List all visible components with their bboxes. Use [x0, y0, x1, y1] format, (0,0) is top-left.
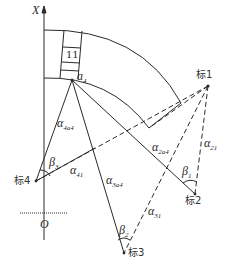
alpha-2a4-label: α2a4	[152, 141, 169, 156]
alpha-41-label: α41	[70, 164, 83, 179]
station3-marker	[123, 252, 126, 255]
dashed-station1-to-station3	[124, 86, 208, 253]
station1-label: 标1	[196, 70, 212, 80]
alpha-4a4-label: α4a4	[57, 117, 74, 132]
point-a4-label: a4	[77, 70, 87, 85]
station1-marker	[206, 84, 209, 87]
segment-divider-2	[62, 62, 80, 63]
station4-marker	[35, 180, 38, 183]
station4-label: 标4	[14, 176, 30, 186]
x-axis-arrow-icon	[42, 6, 46, 13]
origin-label: O	[40, 218, 49, 230]
beta2-label: β2	[119, 224, 128, 239]
segment-label: 11	[66, 50, 79, 60]
line-a4-to-station2	[72, 80, 195, 194]
alpha-21-label: α21	[204, 137, 217, 152]
x-axis-label: X	[32, 4, 39, 16]
outer-arc	[44, 30, 181, 103]
segment-divider-1	[63, 47, 81, 48]
beta1-arc	[183, 180, 197, 183]
beta1-label: β1	[182, 165, 191, 180]
beta3-label: β3	[49, 156, 58, 171]
diagram-canvas	[0, 0, 232, 270]
alpha-31-label: α31	[148, 205, 161, 220]
station2-label: 标2	[185, 196, 201, 206]
segment-left-edge	[60, 30, 64, 78]
alpha-3a4-label: α3a4	[106, 174, 123, 189]
line-station4-to-station1	[36, 148, 95, 181]
station3-label: 标3	[128, 248, 144, 258]
point-a4	[71, 79, 74, 82]
